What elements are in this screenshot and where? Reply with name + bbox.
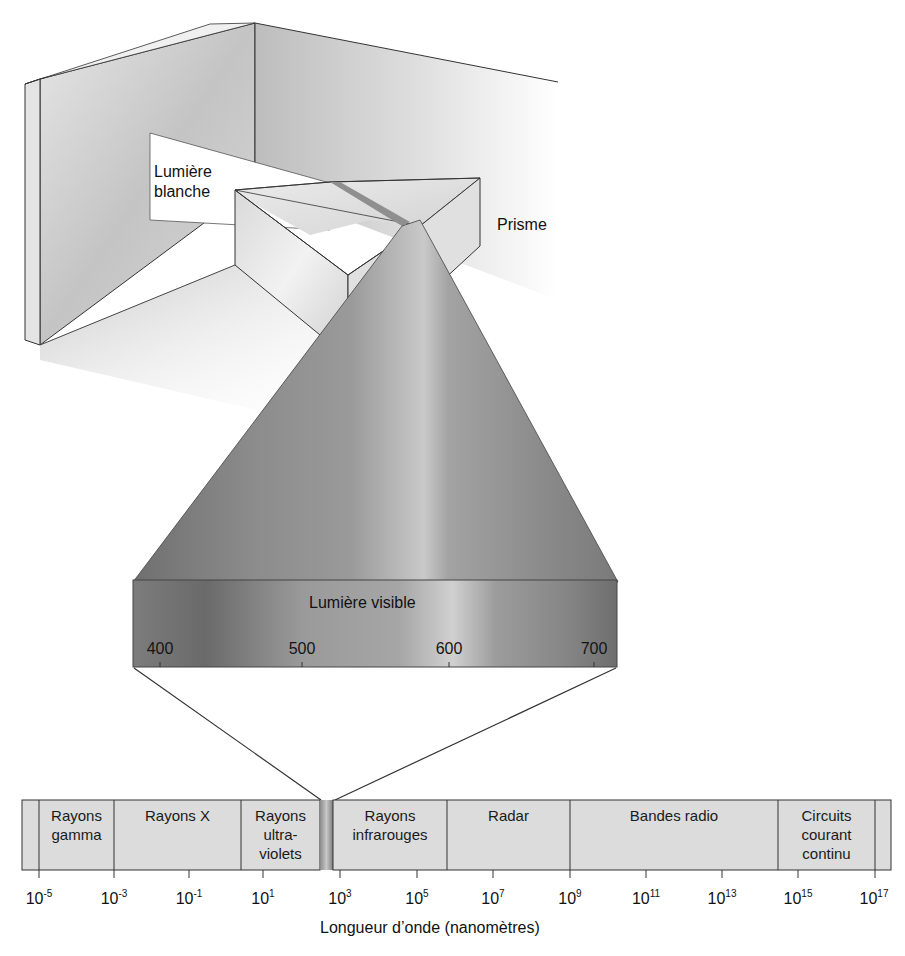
visible-light-label: Lumière visible	[309, 593, 416, 612]
spectrum-band-5: Radar	[447, 806, 570, 825]
prism-label: Prisme	[497, 215, 547, 234]
axis-tick-label-4: 103	[328, 888, 351, 908]
visible-tick-700: 700	[581, 640, 608, 658]
axis-tick-label-2: 10-1	[176, 888, 203, 908]
axis-tick-label-5: 105	[405, 888, 428, 908]
axis-tick-label-6: 107	[481, 888, 504, 908]
visible-tick-500: 500	[289, 640, 316, 658]
axis-tick-label-11: 1017	[860, 888, 889, 908]
axis-ticks	[189, 870, 798, 878]
spectrum-band-4: Rayonsinfrarouges	[333, 806, 447, 844]
axis-tick-label-1: 10-3	[101, 888, 128, 908]
axis-tick-label-0: 10-5	[26, 888, 53, 908]
axis-tick-label-8: 1011	[632, 888, 660, 908]
spectrum-band-6: Bandes radio	[570, 806, 778, 825]
visible-tick-400: 400	[147, 640, 174, 658]
white-light-label: Lumière blanche	[154, 162, 212, 202]
axis-tick-label-9: 1013	[708, 888, 737, 908]
spectrum-band-1: Rayonsgamma	[39, 806, 114, 844]
white-light-label-line1: Lumière	[154, 162, 212, 182]
spectrum-band-3: Rayonsultra-violets	[241, 806, 320, 863]
axis-title: Longueur d’onde (nanomètres)	[320, 918, 540, 937]
white-light-label-line2: blanche	[154, 182, 212, 202]
axis-tick-label-3: 101	[251, 888, 274, 908]
visible-tick-600: 600	[436, 640, 463, 658]
axis-tick-label-7: 109	[558, 888, 581, 908]
spectrum-band-7: Circuitscourantcontinu	[778, 806, 875, 863]
zoom-lines	[134, 668, 616, 800]
axis-tick-label-10: 1015	[784, 888, 813, 908]
spectrum-band-2: Rayons X	[114, 806, 241, 825]
